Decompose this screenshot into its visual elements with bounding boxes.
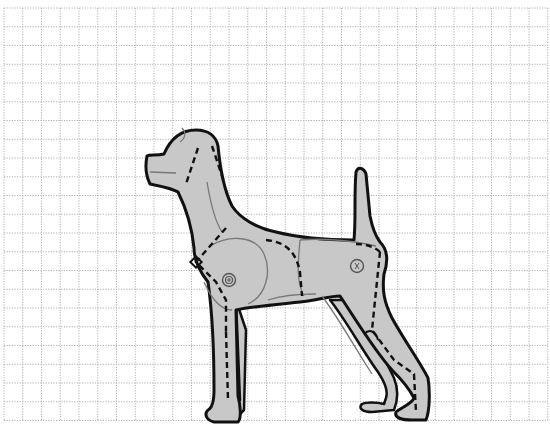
dog-diagram-canvas: [0, 0, 550, 434]
grid-paper: [4, 8, 548, 421]
dog-silhouette: [146, 128, 429, 422]
